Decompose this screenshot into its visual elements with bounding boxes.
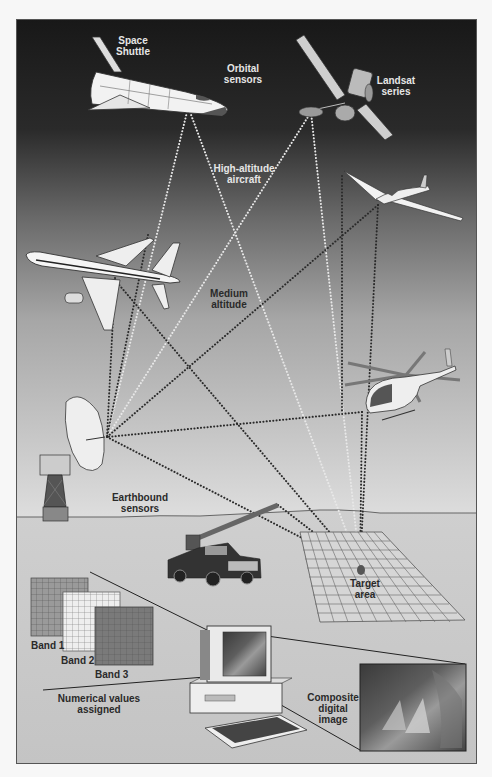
label-medium-altitude: Medium altitude xyxy=(210,288,248,310)
label-band-1: Band 1 xyxy=(31,640,64,651)
label-landsat-series: Landsat series xyxy=(377,75,415,97)
label-space-shuttle: Space Shuttle xyxy=(116,35,150,57)
label-band-3: Band 3 xyxy=(95,669,128,680)
label-composite-digital-image: Composite digital image xyxy=(307,692,359,725)
label-high-altitude-aircraft: High-altitude aircraft xyxy=(213,163,274,185)
remote-sensing-diagram: Space Shuttle Orbital sensors Landsat se… xyxy=(0,0,492,777)
label-numerical-values-assigned: Numerical values assigned xyxy=(58,693,140,715)
composite-digital-image xyxy=(360,664,466,751)
label-target-area: Target area xyxy=(350,578,380,600)
label-earthbound-sensors: Earthbound sensors xyxy=(112,492,168,514)
label-orbital-sensors: Orbital sensors xyxy=(224,63,262,85)
label-band-2: Band 2 xyxy=(61,655,94,666)
